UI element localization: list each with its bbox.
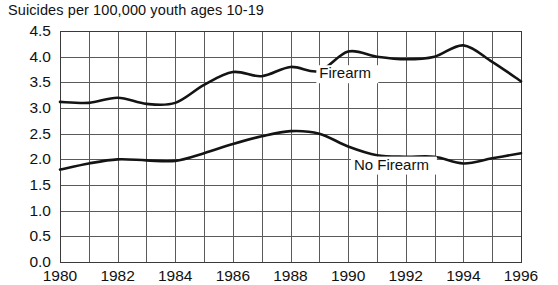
y-tick-label: 4.5 [29, 22, 51, 39]
x-tick-label: 1986 [216, 267, 250, 284]
series-annotations: FirearmNo Firearm [316, 64, 437, 174]
x-tick-label: 1984 [158, 267, 193, 284]
x-tick-label: 1992 [389, 267, 423, 284]
series-label-firearm: Firearm [319, 64, 371, 81]
x-tick-label: 1980 [43, 267, 78, 284]
y-tick-label: 2.5 [29, 125, 51, 142]
x-tick-label: 1990 [331, 267, 366, 284]
series-line-no-firearm [60, 131, 521, 170]
x-tick-label: 1988 [273, 267, 307, 284]
y-tick-label: 4.0 [29, 48, 51, 65]
chart-container: Suicides per 100,000 youth ages 10-19 0.… [0, 0, 558, 285]
x-tick-label: 1982 [100, 267, 134, 284]
y-tick-label: 2.0 [29, 150, 51, 167]
x-tick-label: 1994 [446, 267, 481, 284]
y-tick-label: 1.5 [29, 176, 51, 193]
y-tick-label: 0.5 [29, 227, 51, 244]
y-tick-label: 1.0 [29, 202, 51, 219]
y-axis-tick-labels: 0.00.51.01.52.02.53.03.54.04.5 [29, 22, 51, 270]
data-series-lines [60, 45, 521, 169]
y-tick-label: 3.0 [29, 99, 51, 116]
line-chart-plot: 0.00.51.01.52.02.53.03.54.04.5 198019821… [0, 0, 558, 285]
x-axis-tick-labels: 198019821984198619881990199219941996 [43, 267, 538, 284]
series-line-firearm [60, 45, 521, 105]
y-tick-label: 3.5 [29, 73, 51, 90]
series-label-no-firearm: No Firearm [354, 156, 429, 173]
x-tick-label: 1996 [504, 267, 538, 284]
